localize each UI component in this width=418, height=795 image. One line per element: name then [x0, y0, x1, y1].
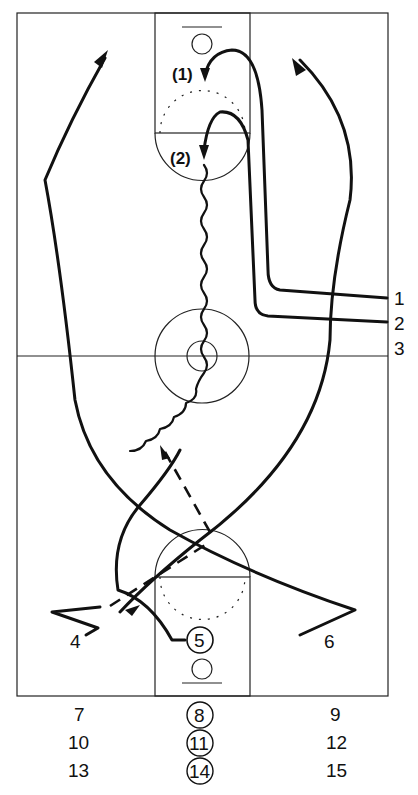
waiting-11: 11 — [189, 733, 209, 754]
waiting-12: 12 — [326, 732, 347, 753]
player-5-label: 5 — [194, 630, 205, 651]
waiting-13: 13 — [68, 760, 89, 781]
arrowhead-2 — [199, 145, 209, 160]
top-free-throw-arc-dotted — [160, 91, 245, 133]
waiting-7: 7 — [74, 704, 85, 725]
spot-label-2: (2) — [170, 149, 191, 168]
waiting-14: 14 — [189, 761, 211, 782]
player-6-label: 6 — [324, 631, 335, 652]
player-4-label: 4 — [70, 631, 81, 652]
lane-label-1: 1 — [394, 288, 405, 309]
route-lane-1 — [205, 50, 387, 298]
arrowhead-1 — [200, 68, 210, 82]
waiting-lines: 7 8 9 10 11 12 13 14 15 — [68, 702, 347, 784]
top-rim — [192, 34, 212, 54]
lane-label-2: 2 — [394, 313, 405, 334]
waiting-8: 8 — [194, 705, 205, 726]
drill-diagram: (1) (2) 1 2 3 4 5 6 7 8 9 10 11 12 13 14… — [0, 0, 418, 795]
lane-label-3: 3 — [394, 338, 405, 359]
waiting-9: 9 — [330, 704, 341, 725]
bottom-rim — [192, 659, 212, 679]
dribble-path — [130, 165, 207, 451]
routes — [45, 50, 387, 640]
spot-label-1: (1) — [172, 65, 193, 84]
route-lane-3 — [120, 60, 351, 612]
arrowhead-pass — [160, 445, 170, 460]
bottom-free-throw-arc-dotted — [160, 577, 245, 620]
arrowhead-5 — [125, 605, 140, 616]
route-player-5 — [116, 450, 185, 640]
waiting-10: 10 — [68, 732, 89, 753]
waiting-15: 15 — [326, 760, 347, 781]
